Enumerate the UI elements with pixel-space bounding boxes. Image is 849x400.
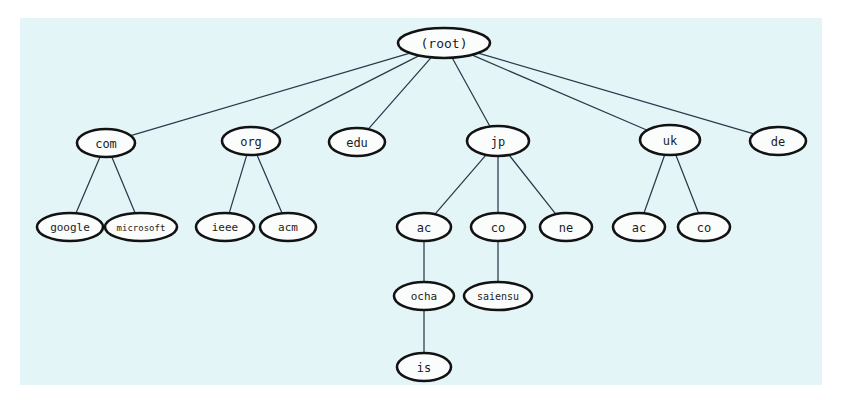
node-label-acm: acm (278, 221, 298, 234)
node-label-ocha: ocha (411, 290, 438, 303)
tree-node-uk-co[interactable]: co (678, 213, 730, 241)
node-label-jp: jp (491, 135, 505, 149)
tree-node-microsoft[interactable]: microsoft (105, 213, 177, 241)
tree-node-org[interactable]: org (222, 127, 280, 155)
diagram-background-plate (20, 18, 822, 385)
tree-node-is[interactable]: is (397, 353, 451, 381)
node-label-saiensu: saiensu (477, 291, 519, 302)
node-label-edu: edu (346, 136, 368, 150)
tree-node-jp-co[interactable]: co (471, 213, 525, 241)
tree-node-root[interactable]: (root) (398, 28, 490, 58)
node-label-is: is (417, 361, 431, 375)
node-label-com: com (95, 137, 117, 151)
tree-node-uk-ac[interactable]: ac (613, 213, 665, 241)
tree-node-jp-ac[interactable]: ac (397, 213, 451, 241)
node-label-jp-ne: ne (559, 221, 573, 235)
tree-node-com[interactable]: com (77, 129, 135, 157)
node-label-uk-ac: ac (632, 221, 646, 235)
node-label-microsoft: microsoft (117, 223, 166, 233)
node-label-uk: uk (663, 134, 678, 148)
node-label-ieee: ieee (212, 221, 239, 234)
node-label-org: org (240, 135, 262, 149)
node-label-google: google (50, 221, 90, 234)
tree-node-acm[interactable]: acm (260, 213, 316, 241)
tree-node-uk[interactable]: uk (640, 125, 700, 155)
node-label-de: de (771, 135, 785, 149)
tree-node-saiensu[interactable]: saiensu (464, 282, 532, 310)
tree-node-de[interactable]: de (750, 127, 806, 155)
tree-node-ocha[interactable]: ocha (394, 282, 454, 310)
node-label-jp-ac: ac (417, 221, 431, 235)
tree-node-jp[interactable]: jp (467, 126, 529, 156)
tree-node-edu[interactable]: edu (329, 128, 385, 156)
node-label-jp-co: co (491, 221, 505, 235)
node-label-root: (root) (421, 36, 468, 51)
dns-tree-figure: (root)comorgedujpukdegooglemicrosoftieee… (0, 0, 849, 400)
node-label-uk-co: co (697, 221, 711, 235)
tree-node-google[interactable]: google (37, 213, 103, 241)
tree-node-ieee[interactable]: ieee (196, 213, 254, 241)
tree-diagram-canvas: (root)comorgedujpukdegooglemicrosoftieee… (0, 0, 849, 400)
tree-node-jp-ne[interactable]: ne (540, 213, 592, 241)
